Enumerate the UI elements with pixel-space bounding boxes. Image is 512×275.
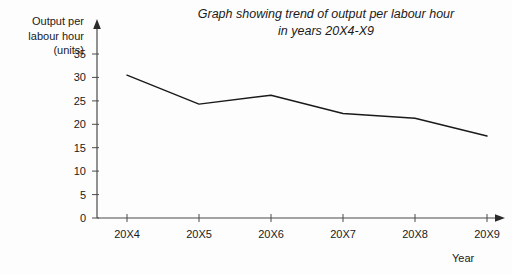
chart-plot-area: 35 30 25 20 15 10 5 0 20X4 20X5 20X6 20X… <box>0 0 512 275</box>
y-tick-label-25: 25 <box>74 95 86 107</box>
y-axis-tick-labels: 35 30 25 20 15 10 5 0 <box>74 48 86 224</box>
y-axis <box>93 19 101 218</box>
y-tick-label-30: 30 <box>74 71 86 83</box>
x-axis <box>97 214 505 222</box>
y-tick-label-15: 15 <box>74 142 86 154</box>
y-tick-label-35: 35 <box>74 48 86 60</box>
chart-container: Graph showing trend of output per labour… <box>0 0 512 275</box>
x-tick-label-5: 20X9 <box>474 228 500 240</box>
y-axis-ticks <box>92 54 99 218</box>
y-tick-label-0: 0 <box>80 212 86 224</box>
y-tick-label-10: 10 <box>74 165 86 177</box>
x-tick-label-2: 20X6 <box>258 228 284 240</box>
y-tick-label-5: 5 <box>80 189 86 201</box>
x-tick-label-0: 20X4 <box>114 228 140 240</box>
x-axis-arrow-icon <box>495 214 505 222</box>
y-axis-arrow-icon <box>93 19 101 29</box>
x-axis-tick-labels: 20X4 20X5 20X6 20X7 20X8 20X9 <box>114 228 500 240</box>
data-series-line <box>127 75 487 136</box>
y-tick-label-20: 20 <box>74 118 86 130</box>
x-tick-label-3: 20X7 <box>330 228 356 240</box>
x-tick-label-1: 20X5 <box>186 228 212 240</box>
x-tick-label-4: 20X8 <box>402 228 428 240</box>
